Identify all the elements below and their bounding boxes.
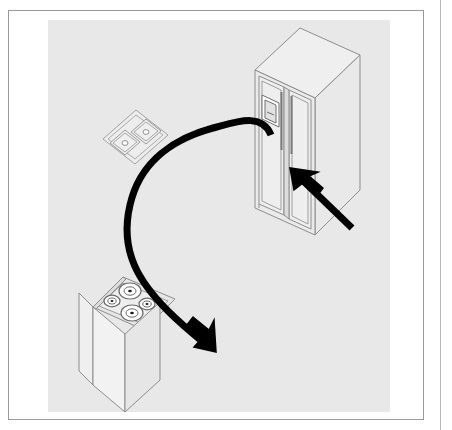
refrigerator-center-stile xyxy=(284,87,289,219)
range-burner-large-front xyxy=(121,305,143,321)
range-left-face xyxy=(79,293,93,385)
range xyxy=(79,277,175,412)
range-burner-small-left xyxy=(104,295,120,307)
figure-page: Kitchen work-triangle movement diagram S… xyxy=(0,0,452,430)
sink-drain-lower xyxy=(122,141,128,146)
range-front-face xyxy=(93,307,125,412)
scene-illustration xyxy=(0,0,452,430)
sink-drain-upper xyxy=(143,130,149,135)
range-burner-large-rear xyxy=(119,283,141,299)
